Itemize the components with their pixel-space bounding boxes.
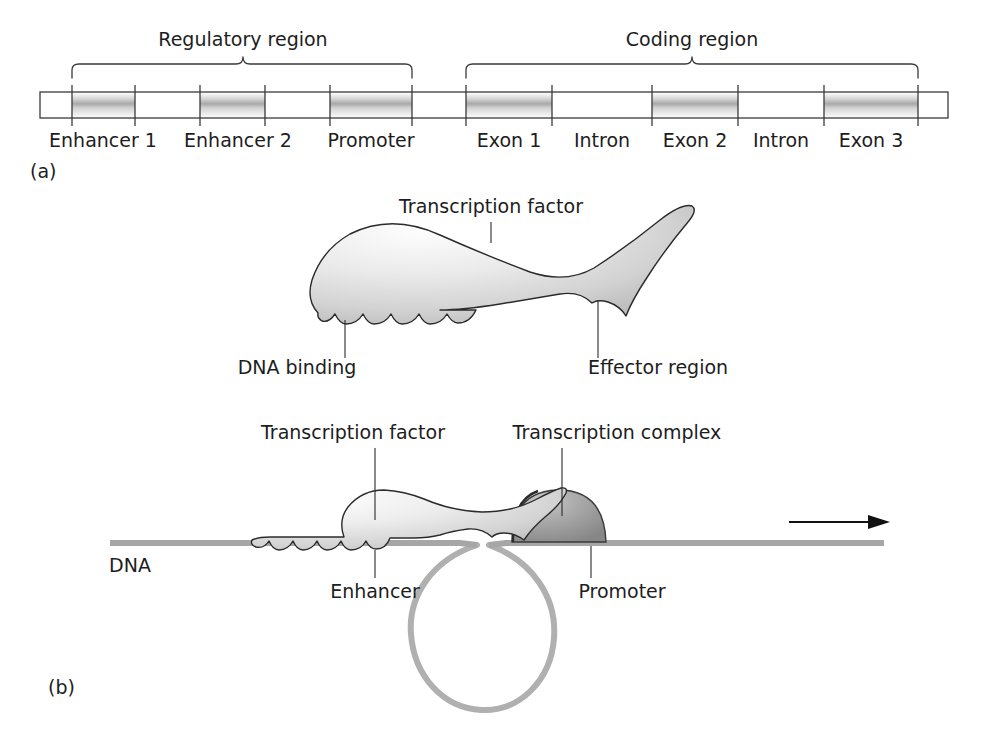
segment-enhancer-2 xyxy=(200,93,265,117)
panel-label-b: (b) xyxy=(48,676,75,698)
dna-label: DNA xyxy=(109,554,151,576)
label-enhancer-1: Enhancer 1 xyxy=(49,129,157,151)
label-exon-2: Exon 2 xyxy=(663,129,727,151)
segment-exon-1 xyxy=(466,93,552,117)
brace-coding-region xyxy=(466,57,918,78)
transcription-factor-lower-label: Transcription factor xyxy=(260,421,445,443)
segment-exon-2 xyxy=(652,93,738,117)
label-enhancer-2: Enhancer 2 xyxy=(184,129,292,151)
segment-enhancer-1 xyxy=(72,93,135,117)
brace-regulatory-region xyxy=(72,57,412,78)
panel-b-upper: Transcription factor DNA binding Effecto… xyxy=(238,195,728,378)
coding-region-label: Coding region xyxy=(626,28,758,50)
panel-a: Regulatory region Coding region xyxy=(30,28,948,182)
panel-b-lower: Transcription factor Transcription compl… xyxy=(48,421,890,710)
dna-loop xyxy=(411,545,555,710)
effector-region-label: Effector region xyxy=(588,356,728,378)
label-exon-3: Exon 3 xyxy=(839,129,903,151)
segment-promoter xyxy=(330,93,412,117)
label-exon-1: Exon 1 xyxy=(477,129,541,151)
dna-strand xyxy=(110,543,884,545)
enhancer-lower-label: Enhancer xyxy=(330,580,420,602)
dna-binding-label: DNA binding xyxy=(238,356,357,378)
transcription-factor-title-label: Transcription factor xyxy=(398,195,583,217)
gene-transcription-figure: Regulatory region Coding region xyxy=(0,0,989,755)
promoter-lower-label: Promoter xyxy=(578,580,665,602)
transcription-complex-label: Transcription complex xyxy=(512,421,722,443)
segment-exon-3 xyxy=(824,93,918,117)
label-promoter: Promoter xyxy=(327,129,414,151)
transcription-direction-arrow xyxy=(789,515,890,529)
label-intron-2: Intron xyxy=(753,129,809,151)
label-intron-1: Intron xyxy=(574,129,630,151)
transcription-factor-shape xyxy=(310,206,694,324)
regulatory-region-label: Regulatory region xyxy=(158,28,327,50)
figure-root: Regulatory region Coding region xyxy=(0,0,989,755)
panel-label-a: (a) xyxy=(30,160,56,182)
